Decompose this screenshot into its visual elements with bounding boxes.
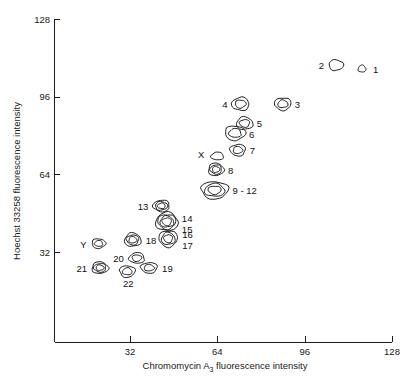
contour-cluster	[92, 262, 109, 274]
peak-label-5: 5	[257, 118, 262, 129]
axes	[55, 19, 393, 343]
x-axis-title-suffix: fluorescence intensity	[213, 360, 307, 371]
contour-ring	[358, 65, 366, 72]
y-tick-label: 64	[39, 169, 50, 180]
contour-cluster	[201, 182, 229, 200]
y-axis-title: Hoechst 33258 fluorescence intensity	[11, 102, 22, 260]
contour-ring	[144, 264, 154, 271]
y-tick-label: 128	[34, 14, 50, 25]
peak-label-1: 1	[373, 64, 378, 75]
contour-ring	[163, 235, 172, 243]
peak-label-13: 13	[138, 201, 149, 212]
peak-label-2: 2	[319, 60, 324, 71]
contour-cluster	[209, 163, 225, 176]
contour-cluster	[156, 211, 179, 230]
contour-ring	[122, 267, 132, 274]
peak-label-X: X	[198, 149, 205, 160]
contour-ring	[212, 166, 219, 172]
x-tick-label: 128	[384, 346, 400, 357]
contour-cluster	[231, 97, 249, 111]
x-tick-label: 96	[299, 346, 310, 357]
contour-cluster	[128, 253, 144, 264]
contour-ring	[236, 100, 247, 108]
y-axis-ticks: 326496128	[34, 14, 60, 258]
x-tick-label: 32	[125, 346, 136, 357]
contour-ring	[94, 240, 103, 246]
contour-cluster	[226, 126, 247, 141]
peak-label-16: 16	[182, 229, 193, 240]
contour-cluster	[119, 266, 135, 278]
x-axis-ticks: 326496128	[125, 336, 400, 357]
peak-label-17: 17	[182, 240, 193, 251]
peak-label-8: 8	[228, 165, 233, 176]
contour-cluster	[210, 152, 223, 160]
contour-cluster	[274, 98, 291, 111]
bivariate-scatter-plot: 326496128 326496128 1234567X89 - 1213141…	[0, 0, 403, 380]
contour-ring	[228, 128, 241, 137]
peak-label-22: 22	[123, 278, 134, 289]
peak-label-912: 9 - 12	[233, 185, 257, 196]
contour-cluster	[92, 239, 106, 249]
contour-cluster	[159, 231, 178, 248]
contour-ring	[233, 146, 243, 153]
contour-ring	[210, 152, 223, 160]
contour-cluster	[236, 116, 253, 129]
peak-label-Y: Y	[80, 239, 87, 250]
contour-ring	[239, 120, 249, 128]
contour-ring	[132, 255, 142, 262]
contour-ring	[208, 186, 221, 195]
peak-label-7: 7	[250, 145, 255, 156]
contour-ring	[157, 203, 165, 209]
contour-ring	[329, 60, 344, 71]
contour-cluster	[124, 232, 141, 246]
peak-label-4: 4	[222, 99, 227, 110]
peak-label-21: 21	[76, 263, 87, 274]
contour-cluster	[358, 65, 366, 72]
peak-label-20: 20	[113, 253, 124, 264]
contour-ring	[129, 236, 137, 243]
peak-label-19: 19	[162, 263, 173, 274]
contour-cluster	[329, 60, 344, 71]
peak-label-6: 6	[249, 129, 254, 140]
contour-ring	[278, 100, 288, 108]
contour-ring	[204, 183, 225, 196]
flow-karyotype-figure: 326496128 326496128 1234567X89 - 1213141…	[0, 0, 403, 380]
contour-ring	[158, 215, 176, 230]
x-axis-title-prefix: Chromomycin A	[143, 360, 211, 371]
contour-cluster	[140, 263, 157, 274]
contour-ring	[162, 218, 172, 226]
peak-label-14: 14	[182, 213, 193, 224]
y-tick-label: 96	[39, 91, 50, 102]
contour-cluster	[229, 144, 245, 156]
contour-ring	[156, 211, 179, 230]
contour-ring	[96, 265, 104, 271]
peak-label-18: 18	[146, 235, 157, 246]
y-tick-label: 32	[39, 247, 50, 258]
x-axis-title: Chromomycin A3 fluorescence intensity	[143, 360, 308, 373]
contour-cluster	[152, 200, 169, 212]
peak-label-3: 3	[295, 99, 300, 110]
peak-labels: 1234567X89 - 12131415161718Y19202122	[76, 60, 378, 289]
x-tick-label: 64	[212, 346, 223, 357]
